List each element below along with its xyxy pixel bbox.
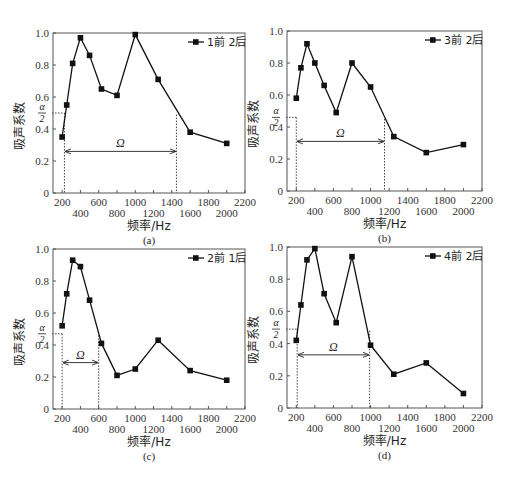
alpha-denominator: 2 [40, 113, 45, 124]
data-marker [368, 342, 374, 348]
x-tick-label: 1200 [378, 422, 401, 434]
x-tick-label: 1600 [415, 205, 438, 217]
y-tick-label: 0.2 [269, 370, 283, 382]
legend-label: 3前 2后 [444, 33, 484, 47]
x-tick-label: 2000 [216, 423, 239, 435]
y-tick-label: 0.8 [269, 273, 283, 285]
data-marker [78, 264, 84, 270]
panel-caption: (c) [143, 450, 156, 463]
data-marker [298, 65, 304, 71]
data-marker [132, 32, 138, 38]
data-marker [349, 254, 355, 260]
omega-label: Ω [329, 340, 338, 354]
data-marker [187, 129, 193, 135]
x-tick-label: 1600 [179, 207, 202, 219]
legend-marker [430, 253, 436, 259]
data-marker [293, 95, 299, 101]
alpha-numerator: α [273, 105, 279, 116]
data-marker [70, 257, 76, 263]
y-axis-title: 吸声系数 [246, 100, 261, 148]
x-tick-label: 600 [325, 411, 342, 423]
alpha-denominator: 2 [40, 334, 45, 345]
x-tick-label: 400 [307, 205, 324, 217]
data-marker [333, 320, 339, 326]
y-axis-title: 吸声系数 [246, 316, 261, 364]
omega-label: Ω [116, 136, 125, 150]
x-tick-label: 200 [54, 412, 71, 424]
x-tick-label: 1600 [415, 422, 438, 434]
y-tick-label: 0.8 [35, 59, 49, 71]
x-tick-label: 2000 [216, 207, 239, 219]
y-axis-title: 吸声系数 [12, 102, 27, 150]
data-marker [99, 341, 105, 347]
y-tick-label: 0.2 [269, 153, 283, 165]
data-marker [333, 110, 339, 116]
x-tick-label: 2000 [452, 205, 475, 217]
omega-label: Ω [336, 126, 345, 140]
y-tick-label: 0.6 [269, 305, 283, 317]
panel-b: 00.20.40.60.81.0200600100014001800220040… [246, 25, 494, 245]
legend-marker [193, 39, 199, 45]
y-tick-label: 0.4 [35, 123, 49, 135]
legend-marker [430, 37, 436, 43]
data-marker [312, 246, 318, 252]
x-tick-label: 200 [288, 411, 305, 423]
y-tick-label: 0.2 [35, 371, 49, 383]
alpha-denominator: 2 [274, 329, 279, 340]
x-tick-label: 600 [325, 194, 342, 206]
alpha-denominator: 2 [274, 117, 279, 128]
data-marker [224, 141, 230, 147]
data-line [62, 35, 227, 144]
y-tick-label: 0 [278, 185, 284, 197]
y-axis-title: 吸声系数 [12, 318, 27, 366]
x-axis-title: 频率/Hz [127, 434, 170, 449]
y-tick-label: 0.2 [35, 155, 49, 167]
y-tick-label: 1.0 [269, 241, 283, 253]
legend-label: 1前 2后 [207, 35, 247, 49]
x-tick-label: 800 [109, 207, 126, 219]
plot-frame [53, 33, 245, 193]
data-line [296, 249, 463, 394]
data-marker [423, 360, 429, 366]
x-tick-label: 400 [72, 423, 89, 435]
data-marker [70, 61, 76, 67]
data-marker [349, 60, 355, 66]
data-marker [224, 377, 230, 383]
x-tick-label: 600 [90, 196, 107, 208]
data-marker [391, 371, 397, 377]
panel-caption: (b) [378, 232, 391, 245]
x-tick-label: 800 [344, 205, 361, 217]
panel-caption: (a) [143, 234, 156, 247]
legend-label: 2前 1后 [207, 251, 247, 265]
y-tick-label: 0.8 [35, 275, 49, 287]
data-marker [59, 323, 65, 329]
data-marker [64, 102, 70, 108]
y-tick-label: 0 [44, 187, 50, 199]
x-tick-label: 1600 [179, 423, 202, 435]
data-marker [304, 257, 310, 263]
data-marker [59, 134, 65, 140]
x-tick-label: 600 [90, 412, 107, 424]
data-marker [87, 297, 93, 303]
data-line [296, 44, 463, 153]
data-marker [187, 368, 193, 374]
legend-label: 4前 2后 [444, 249, 484, 263]
alpha-numerator: α [39, 101, 45, 112]
y-tick-label: 0 [44, 403, 50, 415]
data-marker [64, 291, 70, 297]
data-marker [155, 77, 161, 83]
omega-label: Ω [76, 348, 85, 362]
x-tick-label: 2000 [452, 422, 475, 434]
data-marker [114, 93, 120, 99]
data-marker [293, 338, 299, 344]
y-tick-label: 0.6 [269, 89, 283, 101]
data-marker [298, 302, 304, 308]
data-marker [87, 53, 93, 59]
x-tick-label: 800 [344, 422, 361, 434]
panel-c: 00.20.40.60.81.0200600100014001800220040… [12, 243, 257, 463]
data-marker [321, 83, 327, 89]
data-marker [461, 142, 467, 148]
data-marker [99, 86, 105, 92]
y-tick-label: 0.6 [35, 307, 49, 319]
x-tick-label: 800 [109, 423, 126, 435]
